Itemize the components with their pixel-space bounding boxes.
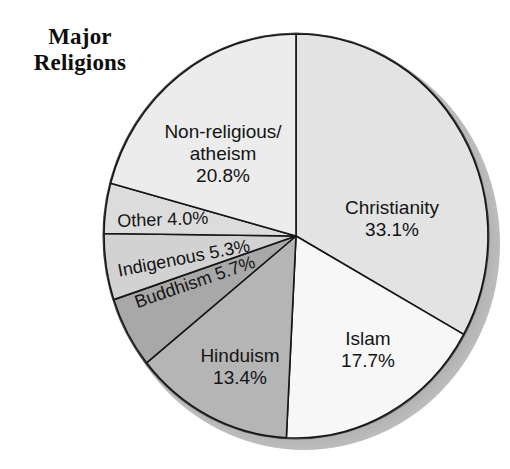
pie-chart-figure: Major Religions Christianity 33.1% Islam… [0, 0, 510, 469]
pie-chart-graphic [0, 0, 510, 469]
pie-slice-group [104, 34, 488, 438]
